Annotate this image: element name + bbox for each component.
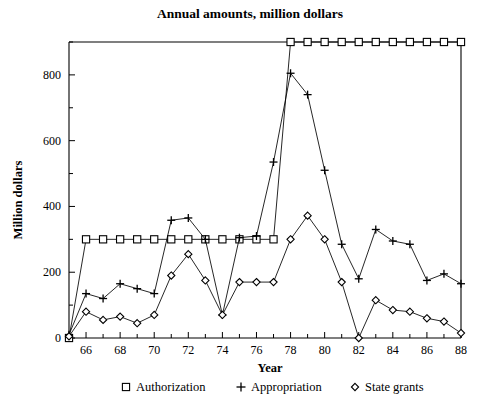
y-tick-label: 0 (55, 331, 61, 345)
x-tick-label: 66 (80, 343, 92, 357)
data-point (321, 166, 329, 174)
legend-label: Authorization (136, 380, 206, 394)
data-point (304, 91, 312, 99)
data-point (287, 38, 294, 45)
data-point (219, 311, 226, 318)
data-point (253, 278, 260, 285)
data-point (184, 214, 192, 222)
annual-amounts-line-chart: Annual amounts, million dollars Million … (0, 0, 500, 414)
data-point (99, 236, 106, 243)
x-tick-label: 80 (319, 343, 331, 357)
data-point (151, 311, 158, 318)
legend-item-appropriation[interactable]: Appropriation (237, 380, 323, 394)
x-tick-label: 68 (114, 343, 126, 357)
x-axis-ticks: 666870727476788082848688 (69, 332, 467, 357)
x-tick-label: 84 (387, 343, 399, 357)
data-point (406, 308, 413, 315)
data-point (236, 278, 243, 285)
data-point (82, 308, 89, 315)
data-point (440, 270, 448, 278)
data-point (321, 236, 328, 243)
x-tick-label: 74 (216, 343, 228, 357)
y-tick-label: 600 (43, 134, 61, 148)
data-point (338, 240, 346, 248)
series-path (69, 42, 461, 338)
data-point (82, 290, 90, 298)
data-point (355, 38, 362, 45)
x-axis-title: Year (258, 361, 283, 375)
y-tick-label: 800 (43, 68, 61, 82)
data-point (82, 236, 89, 243)
data-point (440, 318, 447, 325)
data-point (270, 158, 278, 166)
y-tick-label: 400 (43, 199, 61, 213)
data-point (338, 38, 345, 45)
chart-legend: AuthorizationAppropriationState grants (122, 380, 423, 394)
plus-marker (237, 383, 246, 392)
data-point (150, 290, 158, 298)
data-point (372, 297, 379, 304)
chart-series (65, 38, 465, 341)
data-point (151, 236, 158, 243)
data-point (457, 280, 465, 288)
data-point (338, 278, 345, 285)
data-point (406, 240, 414, 248)
data-point (168, 236, 175, 243)
data-point (185, 236, 192, 243)
data-point (440, 38, 447, 45)
y-tick-label: 200 (43, 265, 61, 279)
series-path (69, 216, 461, 338)
legend-item-authorization[interactable]: Authorization (122, 380, 206, 394)
series-authorization (65, 38, 464, 341)
data-point (372, 38, 379, 45)
data-point (389, 237, 397, 245)
legend-label: Appropriation (251, 380, 323, 394)
data-point (219, 236, 226, 243)
data-point (304, 212, 311, 219)
data-point (270, 236, 277, 243)
x-tick-label: 82 (353, 343, 365, 357)
chart-container: Annual amounts, million dollars Million … (0, 0, 500, 414)
data-point (321, 38, 328, 45)
data-point (134, 320, 141, 327)
data-point (423, 38, 430, 45)
data-point (457, 329, 464, 336)
x-tick-label: 78 (285, 343, 297, 357)
data-point (304, 38, 311, 45)
chart-axes (69, 42, 461, 338)
data-point (167, 216, 175, 224)
y-axis-title: Million dollars (11, 160, 25, 239)
square-marker (122, 383, 129, 390)
data-point (372, 225, 380, 233)
data-point (202, 277, 209, 284)
x-tick-label: 70 (148, 343, 160, 357)
y-axis-ticks: 0200400600800 (43, 42, 75, 345)
data-point (389, 38, 396, 45)
legend-label: State grants (365, 380, 424, 394)
chart-title: Annual amounts, million dollars (157, 6, 343, 21)
diamond-marker (351, 383, 358, 390)
data-point (270, 278, 277, 285)
data-point (355, 275, 363, 283)
series-state-grants (65, 212, 464, 342)
x-tick-label: 76 (250, 343, 262, 357)
legend-item-state-grants[interactable]: State grants (351, 380, 423, 394)
data-point (134, 236, 141, 243)
data-point (389, 306, 396, 313)
data-point (133, 285, 141, 293)
data-point (99, 316, 106, 323)
x-tick-label: 72 (182, 343, 194, 357)
data-point (423, 315, 430, 322)
data-point (117, 313, 124, 320)
series-path (69, 73, 461, 334)
x-tick-label: 88 (455, 343, 467, 357)
data-point (287, 236, 294, 243)
data-point (406, 38, 413, 45)
data-point (423, 276, 431, 284)
x-tick-label: 86 (421, 343, 433, 357)
data-point (117, 236, 124, 243)
data-point (355, 334, 362, 341)
data-point (457, 38, 464, 45)
series-appropriation (65, 69, 465, 338)
